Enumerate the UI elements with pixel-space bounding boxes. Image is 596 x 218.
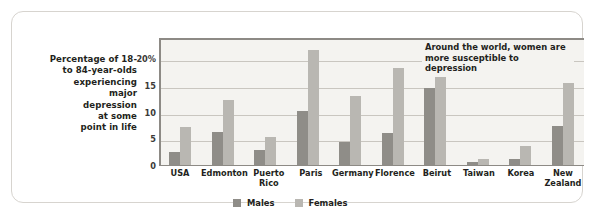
x-axis-tick-label: Florence [374, 169, 416, 188]
bar-group [244, 40, 287, 166]
x-axis-tick-label-line: Florence [374, 169, 416, 179]
legend-label-males: Males [247, 198, 275, 208]
x-axis-tick-label-line: Beirut [416, 169, 458, 179]
x-axis-tick-label-line: Rico [248, 179, 290, 189]
y-axis-tick-label: 15 [145, 81, 156, 91]
bar-females[interactable] [223, 100, 234, 166]
chart-card: Percentage of 18-to 84-year-oldsexperien… [11, 11, 583, 203]
x-axis-tick-labels: USAEdmontonPuertoRicoParisGermanyFlorenc… [159, 169, 584, 188]
x-axis-tick-label: Paris [290, 169, 332, 188]
x-axis-tick-label: Germany [332, 169, 374, 188]
chart-legend: Males Females [159, 198, 348, 208]
x-axis-tick-label-line: USA [159, 169, 201, 179]
x-axis-tick-label: USA [159, 169, 201, 188]
bar-group [329, 40, 372, 166]
y-axis-tick-label: 0 [150, 161, 156, 171]
y-axis-line [159, 40, 161, 166]
chart-annotation: Around the world, women are more suscept… [422, 40, 574, 77]
bar-males[interactable] [297, 111, 308, 166]
bar-females[interactable] [520, 146, 531, 166]
y-axis-tick-label: 10 [145, 108, 156, 118]
x-axis-tick-label-line: Zealand [542, 179, 584, 189]
bar-group [372, 40, 415, 166]
bar-group [159, 40, 202, 166]
legend-swatch-females-icon [295, 199, 303, 207]
bar-females[interactable] [265, 137, 276, 166]
bar-group [202, 40, 245, 166]
bar-females[interactable] [563, 83, 574, 166]
x-axis-tick-label: Taiwan [458, 169, 500, 188]
bar-females[interactable] [350, 96, 361, 166]
legend-item-males[interactable]: Males [233, 198, 275, 208]
bar-group [287, 40, 330, 166]
y-axis-tick-labels: 05101520% [120, 38, 156, 166]
bar-males[interactable] [424, 88, 435, 166]
chart-page: Percentage of 18-to 84-year-oldsexperien… [0, 0, 596, 218]
x-axis-tick-label-line: Korea [500, 169, 542, 179]
bar-females[interactable] [180, 127, 191, 166]
bar-females[interactable] [393, 68, 404, 166]
y-axis-tick-label: 5 [150, 134, 156, 144]
x-axis-tick-label: Edmonton [201, 169, 248, 188]
x-axis-tick-label: Beirut [416, 169, 458, 188]
x-axis-line [159, 165, 584, 167]
x-axis-tick-label-line: Edmonton [201, 169, 248, 179]
legend-label-females: Females [309, 198, 348, 208]
bar-males[interactable] [382, 133, 393, 166]
legend-item-females[interactable]: Females [295, 198, 348, 208]
bar-females[interactable] [308, 50, 319, 166]
x-axis-tick-label: NewZealand [542, 169, 584, 188]
bar-males[interactable] [552, 126, 563, 166]
bar-males[interactable] [339, 142, 350, 166]
bar-males[interactable] [212, 132, 223, 166]
x-axis-tick-label-line: Taiwan [458, 169, 500, 179]
x-axis-tick-label: Korea [500, 169, 542, 188]
y-axis-tick-label: 20% [136, 54, 156, 64]
x-axis-tick-label: PuertoRico [248, 169, 290, 188]
x-axis-tick-label-line: Germany [332, 169, 374, 179]
x-axis-tick-label-line: Paris [290, 169, 332, 179]
legend-swatch-males-icon [233, 199, 241, 207]
